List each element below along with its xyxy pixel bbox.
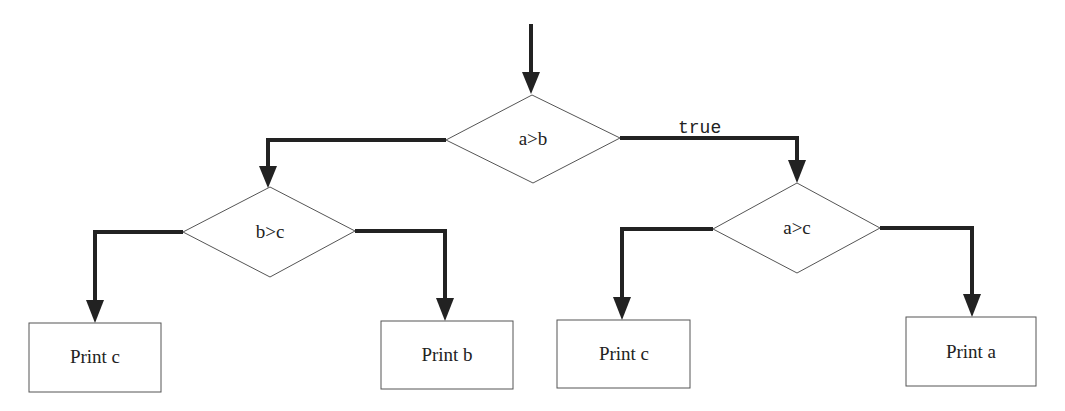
arrowhead-icon — [436, 298, 454, 321]
process-print-b: Print b — [381, 321, 513, 389]
arrowhead-icon — [86, 300, 104, 323]
arrowhead-icon — [963, 294, 981, 317]
process-label: Print c — [599, 343, 649, 364]
process-label: Print c — [70, 346, 120, 367]
decision-label: a>b — [519, 128, 548, 149]
decision-b-gt-c: b>c — [183, 187, 355, 277]
edge-d1-d3: true — [620, 118, 806, 183]
decision-a-gt-b: a>b — [446, 95, 620, 183]
process-label: Print a — [946, 341, 997, 362]
edge-start-d1 — [522, 24, 540, 94]
decision-a-gt-c: a>c — [713, 183, 880, 273]
edge-d3-p3 — [613, 229, 713, 320]
decision-label: a>c — [783, 217, 811, 238]
edge-d2-p1 — [86, 232, 183, 323]
arrowhead-icon — [259, 166, 277, 188]
edge-d1-d2 — [259, 140, 446, 188]
process-label: Print b — [421, 344, 472, 365]
flowchart-canvas: true a>b b>c a>c Print c Print b Print — [0, 0, 1065, 411]
process-print-c-right: Print c — [557, 320, 690, 388]
arrowhead-icon — [613, 297, 631, 320]
edge-d3-p4 — [880, 228, 981, 317]
arrowhead-icon — [522, 72, 540, 94]
process-print-c-left: Print c — [29, 323, 161, 392]
arrowhead-icon — [788, 160, 806, 183]
edge-label-true: true — [678, 118, 721, 138]
edge-d2-p2 — [355, 231, 454, 321]
decision-label: b>c — [256, 221, 285, 242]
process-print-a: Print a — [906, 317, 1036, 386]
